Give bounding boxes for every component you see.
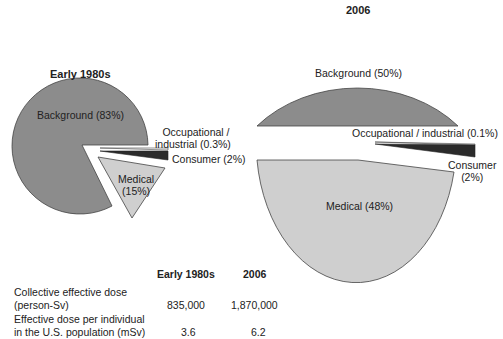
pie2-background-label: Background (50%) — [315, 67, 402, 79]
pie1-occupational-label-line1: Occupational / — [155, 126, 231, 138]
pie2-title: 2006 — [346, 4, 370, 16]
pie1-medical-label: Medical (15%) — [118, 173, 154, 197]
pie2-consumer-label: Consumer (2%) — [448, 159, 496, 183]
table-row2-value2: 6.2 — [251, 326, 266, 339]
pie2-background-slice — [257, 88, 458, 126]
pie2-consumer-label-line2: (2%) — [448, 171, 496, 183]
table-row1-label-line1: Collective effective dose — [14, 286, 127, 299]
pie1-background-label: Background (83%) — [37, 109, 124, 121]
table-row1-label-line2: (person-Sv) — [14, 299, 127, 312]
table-row1-value2: 1,870,000 — [231, 299, 278, 312]
table-row2-value1: 3.6 — [181, 326, 196, 339]
pie1-occupational-label-line2: industrial (0.3%) — [155, 138, 231, 150]
pie2-medical-label: Medical (48%) — [326, 200, 393, 212]
pie1-medical-label-line2: (15%) — [118, 185, 154, 197]
pie2-occupational-label: Occupational / industrial (0.1%) — [352, 127, 498, 139]
table-row2-label-line2: in the U.S. population (mSv) — [14, 326, 145, 339]
table-row2-label: Effective dose per individual in the U.S… — [14, 313, 145, 339]
table-row1-value1: 835,000 — [167, 299, 205, 312]
table-row2-label-line1: Effective dose per individual — [14, 313, 145, 326]
table-header-col1: Early 1980s — [157, 268, 215, 281]
pie1-title: Early 1980s — [50, 68, 111, 80]
pie1-medical-label-line1: Medical — [118, 173, 154, 185]
pie2-medical-slice — [257, 160, 454, 283]
pie2-consumer-label-line1: Consumer — [448, 159, 496, 171]
table-row1-label: Collective effective dose (person-Sv) — [14, 286, 127, 312]
pie1-occupational-label: Occupational / industrial (0.3%) — [155, 126, 231, 150]
pie2-consumer-slice — [375, 144, 475, 157]
table-header-col2: 2006 — [243, 268, 266, 281]
pie1-consumer-label: Consumer (2%) — [172, 153, 246, 165]
